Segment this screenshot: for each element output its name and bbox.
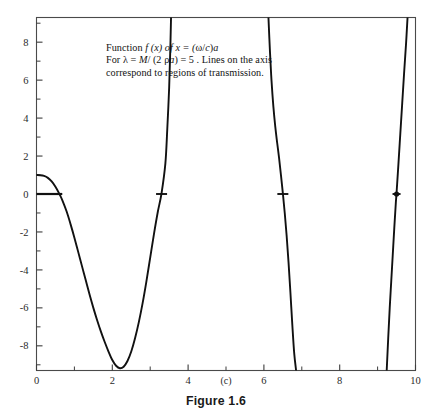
x-axis-ticks [37, 365, 416, 371]
y-tick-label: -8 [20, 340, 29, 351]
y-tick-label: 0 [23, 189, 28, 200]
x-tick-label: 4 [185, 375, 191, 386]
y-tick-label: -4 [20, 265, 29, 276]
annotation-line-2: For λ = M/ (2 ρa) = 5 . Lines on the axi… [106, 54, 338, 66]
figure-caption: Figure 1.6 [0, 394, 432, 408]
panel-label-text: (c) [220, 375, 231, 387]
transmission-region-markers [37, 191, 401, 196]
y-tick-label: -2 [20, 227, 29, 238]
y-tick-label: 4 [23, 113, 29, 124]
x-tick-label: 10 [410, 375, 421, 386]
y-tick-label: -6 [20, 302, 29, 313]
y-tick-label: 6 [23, 75, 28, 86]
annotation-line-1: Function f (x) of x = (ω/c)a [106, 42, 338, 54]
x-tick-label: 8 [337, 375, 342, 386]
y-axis-tick-labels: -8-6-4-202468 [20, 37, 30, 352]
y-tick-label: 8 [23, 37, 28, 48]
x-tick-label: 0 [34, 375, 39, 386]
figure-container: -8-6-4-202468 0246810 (c) Function f (x)… [0, 0, 432, 420]
annotation-line-3: correspond to regions of transmission. [106, 67, 338, 79]
panel-label: (c) [220, 375, 231, 387]
x-tick-label: 2 [110, 375, 115, 386]
y-tick-label: 2 [23, 151, 28, 162]
curve-branch [387, 18, 408, 371]
chart-annotation: Function f (x) of x = (ω/c)a For λ = M/ … [106, 42, 338, 79]
x-tick-label: 6 [261, 375, 266, 386]
